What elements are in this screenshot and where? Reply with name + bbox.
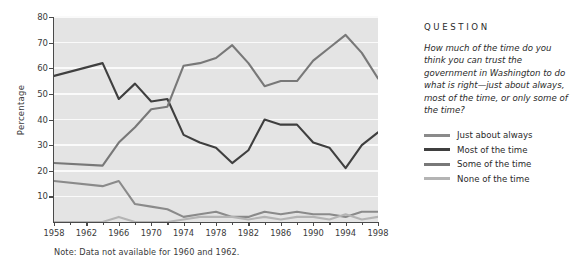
y-axis-line — [53, 17, 54, 222]
series-line — [54, 63, 378, 168]
x-axis-tick-minor — [103, 222, 104, 225]
x-axis-label: 1962 — [69, 228, 103, 238]
chart-note: Note: Data not available for 1960 and 19… — [54, 247, 240, 257]
x-axis-label: 1994 — [329, 228, 363, 238]
plot-area — [54, 17, 378, 222]
y-axis-label: 30 — [4, 140, 48, 150]
legend-label: Most of the time — [457, 145, 528, 155]
series-line — [54, 181, 378, 217]
line-chart: Percentage 1020304050607080 195819621966… — [0, 0, 400, 268]
x-axis-tick-minor — [362, 222, 363, 225]
question-text: How much of the time do you think you ca… — [424, 42, 572, 117]
chart-page: Percentage 1020304050607080 195819621966… — [0, 0, 577, 268]
x-axis-label: 1978 — [199, 228, 233, 238]
x-axis-tick-major — [216, 222, 217, 226]
x-axis-label: 1990 — [296, 228, 330, 238]
chart-legend: Just about alwaysMost of the timeSome of… — [424, 130, 574, 185]
x-axis-tick-minor — [167, 222, 168, 225]
y-axis-label: 80 — [4, 12, 48, 22]
x-axis-tick-major — [281, 222, 282, 226]
x-axis-tick-minor — [297, 222, 298, 225]
x-axis-tick-minor — [70, 222, 71, 225]
y-axis-label: 20 — [4, 166, 48, 176]
x-axis-tick-major — [313, 222, 314, 226]
y-axis-label: 70 — [4, 38, 48, 48]
x-axis-label: 1970 — [134, 228, 168, 238]
x-axis-tick-minor — [265, 222, 266, 225]
x-axis-label: 1986 — [264, 228, 298, 238]
y-axis-label: 40 — [4, 115, 48, 125]
series-line — [54, 35, 378, 166]
y-axis-label: 10 — [4, 191, 48, 201]
legend-swatch-icon — [424, 148, 450, 151]
x-axis-tick-major — [346, 222, 347, 226]
x-axis-tick-major — [184, 222, 185, 226]
legend-swatch-icon — [424, 163, 450, 166]
y-axis-label: 50 — [4, 89, 48, 99]
x-axis-tick-major — [151, 222, 152, 226]
x-axis-tick-major — [378, 222, 379, 226]
legend-label: Just about always — [457, 130, 533, 140]
x-axis-tick-major — [119, 222, 120, 226]
x-axis-label: 1998 — [361, 228, 395, 238]
legend-label: None of the time — [457, 174, 529, 184]
x-axis-tick-minor — [135, 222, 136, 225]
x-axis-tick-major — [54, 222, 55, 226]
x-axis-tick-minor — [232, 222, 233, 225]
legend-swatch-icon — [424, 177, 450, 180]
legend-item[interactable]: Most of the time — [424, 144, 574, 155]
y-axis-label: 60 — [4, 63, 48, 73]
x-axis-label: 1958 — [37, 228, 71, 238]
legend-swatch-icon — [424, 134, 450, 137]
x-axis-label: 1966 — [102, 228, 136, 238]
series-lines — [54, 17, 378, 222]
x-axis-label: 1982 — [231, 228, 265, 238]
x-axis-tick-major — [248, 222, 249, 226]
legend-item[interactable]: None of the time — [424, 173, 574, 184]
x-axis-label: 1974 — [167, 228, 201, 238]
x-axis-tick-major — [86, 222, 87, 226]
legend-label: Some of the time — [457, 159, 531, 169]
question-panel: QUESTION How much of the time do you thi… — [424, 22, 574, 188]
x-axis-tick-minor — [329, 222, 330, 225]
x-axis-tick-minor — [200, 222, 201, 225]
legend-item[interactable]: Some of the time — [424, 159, 574, 170]
legend-item[interactable]: Just about always — [424, 130, 574, 141]
question-heading: QUESTION — [424, 22, 574, 32]
